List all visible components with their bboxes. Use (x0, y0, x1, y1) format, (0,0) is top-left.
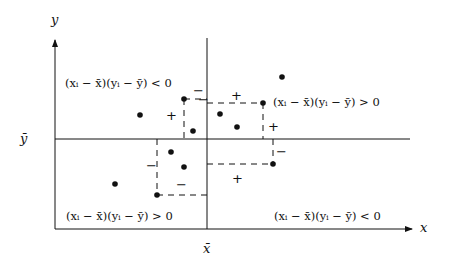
quadrant-label-top-right: (xᵢ − x̄)(yᵢ − ȳ) > 0 (273, 95, 380, 109)
data-point (181, 96, 187, 102)
scatter-quadrant-diagram: y x ȳ x̄ (xᵢ − x̄)(yᵢ − ȳ) < 0 (xᵢ − x̄)… (0, 0, 450, 266)
sign-br-plus-h: + (232, 171, 243, 186)
x-axis-label: x (420, 220, 428, 235)
sign-tr-plus-h: + (231, 88, 242, 103)
data-point (112, 181, 118, 187)
x-mean-label: x̄ (203, 241, 211, 256)
sign-bl-minus-h: − (176, 177, 187, 192)
quadrant-label-top-left: (xᵢ − x̄)(yᵢ − ȳ) < 0 (65, 76, 172, 90)
data-point (279, 74, 285, 80)
y-mean-label: ȳ (19, 131, 28, 146)
y-axis-label: y (50, 12, 59, 27)
sign-tl-minus-v: − (198, 92, 209, 107)
data-point (137, 112, 143, 118)
quadrant-label-bottom-right: (xᵢ − x̄)(yᵢ − ȳ) < 0 (274, 209, 381, 223)
sign-br-minus-v: − (276, 144, 287, 159)
data-point (260, 100, 266, 106)
data-point (181, 164, 187, 170)
sign-tr-plus-v: + (268, 119, 279, 134)
data-point (234, 124, 240, 130)
sign-bl-minus-v: − (146, 158, 157, 173)
data-point (217, 111, 223, 117)
data-point (270, 161, 276, 167)
data-point (168, 149, 174, 155)
data-point (190, 128, 196, 134)
data-point (154, 192, 160, 198)
sign-tl-plus: + (166, 108, 177, 123)
quadrant-label-bottom-left: (xᵢ − x̄)(yᵢ − ȳ) > 0 (66, 209, 173, 223)
